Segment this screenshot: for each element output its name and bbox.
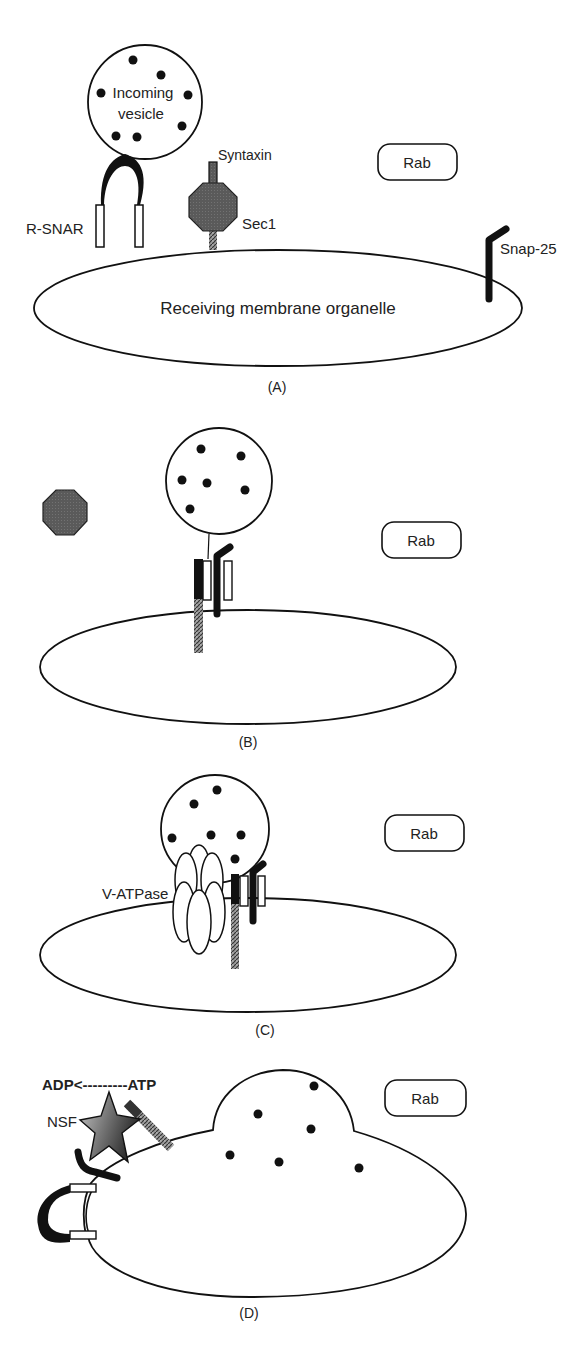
rsnare-tm-left [240, 876, 248, 906]
rsnare-label: R-SNAR [26, 220, 84, 237]
panel-b: Rab (B) [40, 428, 461, 750]
rsnare-tether [208, 534, 209, 559]
sec1-label: Sec1 [242, 215, 276, 232]
rab-label-d: Rab [411, 1090, 439, 1107]
v-atpase-complex [173, 845, 225, 954]
caption-c: (C) [255, 1022, 274, 1038]
panel-d: NSF ADP<---------ATP Rab (D) [37, 1070, 466, 1321]
rsnare-tm-left [203, 561, 211, 600]
syntaxin-head [194, 559, 203, 599]
syntaxin-stalk [209, 162, 217, 184]
rsnare-left-tm [96, 205, 104, 247]
vesicle-label-line2: vesicle [118, 105, 164, 122]
rsnare-tm-right [258, 876, 265, 906]
rsnare-tm-right [224, 561, 232, 600]
receiving-organelle [40, 898, 456, 1012]
sec1-octagon-detached [43, 490, 87, 535]
incoming-vesicle [88, 45, 202, 159]
syntaxin-head [231, 874, 239, 904]
cis-snare-tm-top [70, 1184, 96, 1192]
rsnare-arch [101, 154, 144, 205]
caption-a: (A) [268, 379, 287, 395]
syntaxin-head [127, 1103, 139, 1115]
rsnare-right-tm [135, 205, 143, 247]
caption-b: (B) [239, 734, 258, 750]
panel-c: V-ATPase Rab (C) [40, 775, 464, 1038]
rab-label-a: Rab [403, 154, 431, 171]
snare-fusion-diagram: Receiving membrane organelle Incoming ve… [0, 0, 580, 1360]
adp-atp-reaction: ADP<---------ATP [42, 1076, 156, 1093]
caption-d: (D) [239, 1305, 258, 1321]
rab-label-b: Rab [407, 532, 435, 549]
cis-snare-tm-bottom [70, 1231, 96, 1239]
vesicle-label-line1: Incoming [113, 84, 174, 101]
nsf-label: NSF [47, 1113, 77, 1130]
panel-a: Receiving membrane organelle Incoming ve… [26, 45, 557, 395]
sec1-octagon [189, 183, 237, 231]
receiving-organelle [40, 610, 456, 724]
rab-label-c: Rab [410, 825, 438, 842]
cis-snare-arch [37, 1185, 70, 1243]
syntaxin-label: Syntaxin [218, 147, 272, 163]
snap25-label: Snap-25 [500, 240, 557, 257]
vatpase-label: V-ATPase [102, 885, 168, 902]
organelle-label: Receiving membrane organelle [160, 299, 395, 318]
